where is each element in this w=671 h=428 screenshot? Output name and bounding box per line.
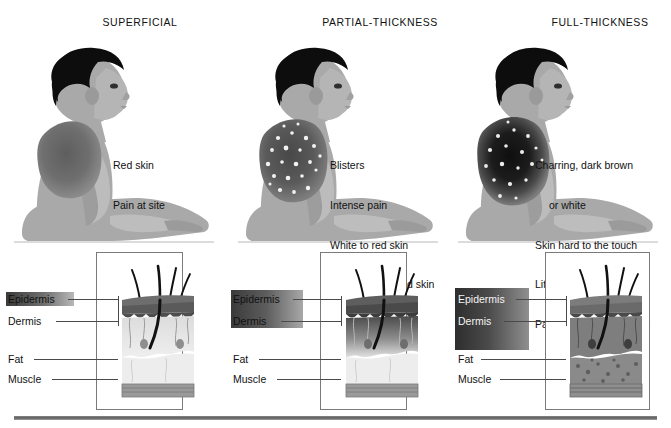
layer-fat [570,353,642,384]
leader-dermis [56,321,118,322]
leader-dermis [281,321,341,322]
layer-label-muscle: Muscle [458,373,491,385]
burn-area-superficial [37,121,101,198]
leader-dermis [504,321,566,322]
column-title-partial-thickness: PARTIAL-THICKNESS [305,16,455,28]
burn-severity-diagram: SUPERFICIAL PARTIAL-THICKNESS FULL-THICK… [0,0,671,428]
layer-label-muscle: Muscle [233,373,266,385]
column-title-full-thickness: FULL-THICKNESS [525,16,671,28]
symptom-item: Blisters [330,159,434,172]
leader-bracket [118,296,119,326]
layer-label-dermis: Dermis [458,315,491,327]
layer-label-fat: Fat [8,353,23,365]
leader-muscle [52,379,118,380]
symptom-item: White to red skin [330,239,434,252]
symptom-item: Skin hard to the touch [535,239,650,252]
layer-label-fat: Fat [458,353,473,365]
layer-label-epidermis: Epidermis [458,293,505,305]
symptom-item: Pain at site [113,199,165,212]
layer-label-dermis: Dermis [233,315,266,327]
symptom-list-superficial: Red skin Pain at site [113,133,165,239]
leader-bracket [341,296,342,326]
leader-epidermis [293,299,341,300]
layer-muscle [122,384,194,397]
layer-label-dermis: Dermis [8,315,41,327]
layer-muscle [570,384,642,397]
layer-label-epidermis: Epidermis [233,293,280,305]
leader-bracket [566,296,567,326]
cross-section-superficial [110,256,206,410]
layer-label-epidermis: Epidermis [8,293,55,305]
leader-muscle [277,379,341,380]
layer-muscle [346,384,418,397]
burn-area-partial [259,119,327,202]
symptom-item: Intense pain [330,199,434,212]
leader-epidermis [516,299,566,300]
leader-fat [259,359,341,360]
leader-muscle [500,379,566,380]
symptom-item: or white [535,199,650,212]
column-title-superficial: SUPERFICIAL [80,16,200,28]
symptom-item: Charring, dark brown [535,159,650,172]
cross-section-full-thickness [558,256,654,410]
cross-section-partial-thickness [334,256,430,410]
layer-label-fat: Fat [233,353,248,365]
leader-fat [34,359,118,360]
leader-fat [481,359,566,360]
leader-epidermis [68,299,118,300]
symptom-item: Red skin [113,159,165,172]
layer-label-muscle: Muscle [8,373,41,385]
bottom-divider [14,416,657,420]
